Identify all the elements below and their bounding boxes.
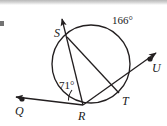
point-label-U: U xyxy=(152,62,161,74)
point-label-R: R xyxy=(78,110,85,122)
ray-R-through-S xyxy=(62,19,83,105)
point-label-Q: Q xyxy=(15,105,24,117)
point-label-T: T xyxy=(122,95,129,107)
chord-S-to-T xyxy=(67,37,119,93)
point-label-S: S xyxy=(54,27,60,39)
arc-label-166: 166° xyxy=(112,15,133,26)
geometry-figure: S T R Q U 71° 166° xyxy=(0,0,167,126)
diagram-canvas xyxy=(0,0,167,126)
ray-R-to-U xyxy=(83,53,156,105)
point-dot-Q xyxy=(19,96,24,101)
angle-arc-at-R xyxy=(68,90,72,101)
angle-label-71: 71° xyxy=(59,80,74,91)
